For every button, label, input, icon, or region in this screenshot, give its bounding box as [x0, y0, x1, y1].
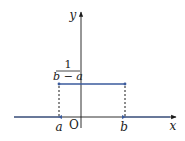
endpoint-a-top	[58, 83, 61, 86]
uniform-density-diagram: 1 b − a y x O a b	[0, 0, 185, 141]
origin-label: O	[69, 118, 79, 132]
endpoint-b-top	[124, 83, 127, 86]
diagram-svg: 1 b − a y x O a b	[0, 0, 185, 141]
fraction-denominator: b − a	[53, 70, 83, 83]
y-axis-label: y	[69, 8, 77, 22]
point-b-label: b	[120, 120, 128, 134]
x-axis-label: x	[170, 119, 177, 133]
point-a-label: a	[55, 120, 62, 134]
